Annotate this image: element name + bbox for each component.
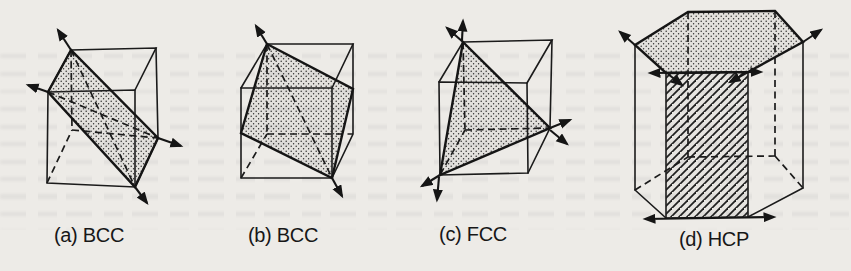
figure-caption-a: (a) BCC bbox=[34, 224, 144, 247]
prism-face-hatching bbox=[666, 72, 748, 217]
bcc-unit-cell-a bbox=[28, 30, 181, 203]
figure-caption-c: (c) FCC bbox=[418, 223, 528, 246]
figure-caption-d: (d) HCP bbox=[659, 228, 769, 251]
slip-plane-shading bbox=[440, 42, 550, 175]
scanned-crystal-slip-figure: (a) BCC (b) BCC (c) FCC (d) HCP bbox=[0, 0, 851, 271]
fcc-unit-cell-c bbox=[422, 21, 570, 200]
hcp-unit-cell-d bbox=[620, 11, 821, 219]
basal-plane-shading bbox=[635, 11, 803, 73]
figure-caption-b: (b) BCC bbox=[228, 224, 338, 247]
bcc-unit-cell-b bbox=[241, 26, 353, 196]
